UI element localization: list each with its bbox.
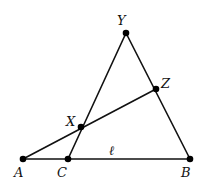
segment-AZ <box>23 89 156 159</box>
point-a <box>20 156 27 163</box>
segment-CY <box>68 33 126 159</box>
label-b: B <box>180 165 191 180</box>
labels-group: YZXACBℓ <box>13 13 191 180</box>
label-x: X <box>65 114 76 129</box>
label-c: C <box>57 165 67 180</box>
diagram-svg: YZXACBℓ <box>0 0 205 191</box>
point-y <box>123 30 130 37</box>
label-line-l: ℓ <box>109 143 115 158</box>
points-group <box>20 30 194 163</box>
label-y: Y <box>117 13 127 28</box>
segment-YB <box>126 33 190 159</box>
point-b <box>187 156 194 163</box>
point-z <box>153 86 160 93</box>
point-c <box>65 156 72 163</box>
geometry-diagram: YZXACBℓ <box>0 0 205 191</box>
segments-group <box>23 33 190 159</box>
label-z: Z <box>160 76 171 91</box>
point-x <box>78 124 85 131</box>
label-a: A <box>13 165 23 180</box>
